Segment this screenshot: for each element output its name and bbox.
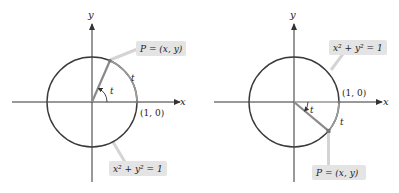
point-label: P = (x, y): [315, 168, 359, 178]
angle-arrow-icon: [99, 89, 108, 103]
point-leader-line: [110, 48, 140, 60]
unit-point-label: (1, 0): [342, 88, 366, 98]
angle-label: t: [310, 105, 314, 115]
point-p: [327, 129, 331, 133]
radius-segment: [92, 61, 110, 102]
angle-arrow-icon: [305, 102, 308, 111]
y-axis-label: y: [289, 9, 296, 20]
arc-label: t: [131, 73, 135, 83]
point-1-0: [136, 101, 139, 104]
y-axis-label: y: [87, 9, 94, 20]
unit-circle-figures: x y t t (1, 0) P = (x, y) x² + y² = 1 x …: [0, 0, 399, 193]
x-axis-label: x: [383, 96, 389, 107]
arc-label: t: [340, 117, 344, 127]
equation-leader-line: [113, 142, 125, 162]
equation-label: x² + y² = 1: [333, 43, 383, 53]
arc-t: [329, 102, 340, 131]
x-axis-label: x: [180, 96, 186, 107]
point-p: [108, 59, 112, 63]
equation-leader-line: [331, 54, 343, 70]
left-diagram: x y t t (1, 0) P = (x, y) x² + y² = 1: [12, 9, 186, 182]
unit-point-label: (1, 0): [140, 108, 164, 118]
point-1-0: [338, 101, 341, 104]
angle-label: t: [110, 86, 114, 96]
point-label: P = (x, y): [139, 44, 183, 54]
right-diagram: x y t t (1, 0) x² + y² = 1 P = (x, y): [214, 9, 389, 182]
equation-label: x² + y² = 1: [113, 164, 163, 174]
